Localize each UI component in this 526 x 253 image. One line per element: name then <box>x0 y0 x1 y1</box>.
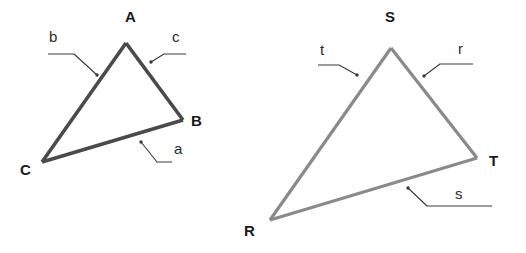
leader-line-side-b <box>48 54 97 75</box>
leader-line-side-r <box>424 64 473 76</box>
leader-line-side-s <box>408 188 492 206</box>
vertex-label-a: A <box>125 8 136 25</box>
vertex-label-b: B <box>191 112 202 129</box>
leader-line-side-c <box>151 54 186 62</box>
triangle-abc-side-b <box>42 43 126 162</box>
geometry-diagram: A B C a b c S T R <box>0 0 526 253</box>
triangle-rst-side-s <box>270 158 477 220</box>
vertex-label-t: T <box>489 152 498 169</box>
leader-line-side-t <box>318 65 357 75</box>
leader-dot-side-c <box>149 60 152 63</box>
triangle-rst-group: S T R r s t <box>244 8 498 239</box>
side-label-r: r <box>458 40 463 57</box>
vertex-label-s: S <box>385 8 395 25</box>
side-label-b: b <box>49 28 57 45</box>
diagram-canvas: A B C a b c S T R <box>0 0 526 253</box>
side-label-c: c <box>172 28 180 45</box>
side-label-s: s <box>455 185 463 202</box>
vertex-label-c: C <box>20 161 31 178</box>
triangle-abc-group: A B C a b c <box>20 8 202 178</box>
leader-dot-side-b <box>95 73 98 76</box>
triangle-rst-side-t <box>270 48 391 220</box>
leader-dot-side-a <box>139 140 142 143</box>
side-label-a: a <box>174 140 183 157</box>
triangle-abc-side-a <box>42 120 183 162</box>
vertex-label-r: R <box>244 222 255 239</box>
side-label-t: t <box>320 41 325 58</box>
leader-dot-side-s <box>406 186 409 189</box>
leader-dot-side-r <box>422 74 425 77</box>
leader-dot-side-t <box>355 73 358 76</box>
leader-line-side-a <box>141 142 172 162</box>
